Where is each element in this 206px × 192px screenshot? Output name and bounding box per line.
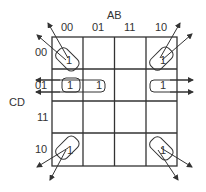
row-header: 10	[35, 144, 47, 155]
row-header: 01	[35, 80, 47, 91]
row-header: 00	[35, 47, 47, 58]
column-header: 10	[155, 22, 167, 33]
cell-value: 1	[67, 145, 73, 156]
cell-value: 1	[67, 80, 73, 91]
cell-value: 1	[66, 55, 72, 66]
cell-value: 1	[160, 80, 166, 91]
rows-variable-label: CD	[9, 97, 25, 108]
columns-variable-label: AB	[107, 10, 122, 21]
cell-value: 1	[96, 80, 102, 91]
column-header: 01	[92, 22, 104, 33]
cell-value: 1	[160, 145, 166, 156]
column-header: 11	[124, 22, 135, 33]
column-header: 00	[61, 22, 73, 33]
cell-value: 1	[160, 55, 166, 66]
row-header: 11	[37, 112, 48, 123]
